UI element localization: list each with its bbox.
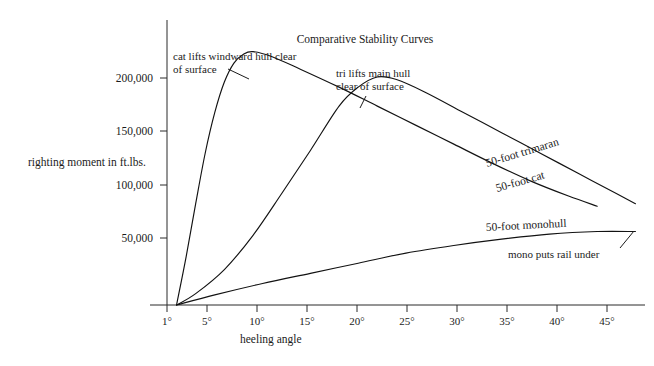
annotation-mono-rail: mono puts rail under (508, 231, 634, 260)
annotation-leader-line (620, 231, 634, 248)
annotation-text-line1: tri lifts main hull (336, 67, 410, 79)
y-tick-label: 100,000 (116, 179, 154, 192)
annotation-text-line2: of surface (173, 63, 217, 75)
series-labels: 50-foot trimaran 50-foot cat 50-foot mon… (484, 135, 567, 233)
series-curve-50-foot-trimaran (177, 77, 636, 305)
annotation-cat-lift: cat lifts windward hull clear of surface (173, 50, 297, 79)
y-tick-label: 200,000 (116, 72, 154, 85)
x-tick-label: 10° (249, 315, 264, 327)
x-tick-label: 5° (202, 315, 212, 327)
x-tick-label: 35° (499, 315, 514, 327)
series-label-cat: 50-foot cat (494, 168, 546, 194)
x-tick-label: 20° (349, 315, 364, 327)
y-tick-label: 150,000 (116, 125, 154, 138)
series-label-monohull: 50-foot monohull (485, 217, 566, 233)
y-axis-title: righting moment in ft.lbs. (28, 156, 146, 169)
x-axis-ticks: 1° 5° 10° 15° 20° 25° 30° 35° 40° 45° (162, 305, 615, 327)
annotation-text-line1: mono puts rail under (508, 248, 600, 260)
series-label-trimaran: 50-foot trimaran (484, 135, 560, 169)
chart-series-group (177, 52, 636, 305)
x-tick-label: 30° (449, 315, 464, 327)
x-tick-label: 40° (549, 315, 564, 327)
chart-canvas: 50,000 100,000 150,000 200,000 1° 5° 10°… (0, 0, 654, 366)
annotation-tri-lift: tri lifts main hull clear of surface (336, 67, 410, 108)
x-tick-label: 45° (599, 315, 614, 327)
x-tick-label: 25° (399, 315, 414, 327)
chart-axes (150, 20, 645, 305)
annotation-leader-line (228, 69, 249, 79)
annotation-text-line2: clear of surface (336, 80, 404, 92)
annotation-text-line1: cat lifts windward hull clear (173, 50, 297, 62)
x-tick-label: 1° (162, 315, 172, 327)
stability-chart-figure: 50,000 100,000 150,000 200,000 1° 5° 10°… (0, 0, 654, 366)
y-tick-label: 50,000 (121, 232, 153, 245)
chart-title: Comparative Stability Curves (297, 33, 434, 46)
x-tick-label: 15° (299, 315, 314, 327)
series-curve-50-foot-monohull (177, 231, 636, 305)
x-axis-title: heeling angle (240, 333, 302, 346)
